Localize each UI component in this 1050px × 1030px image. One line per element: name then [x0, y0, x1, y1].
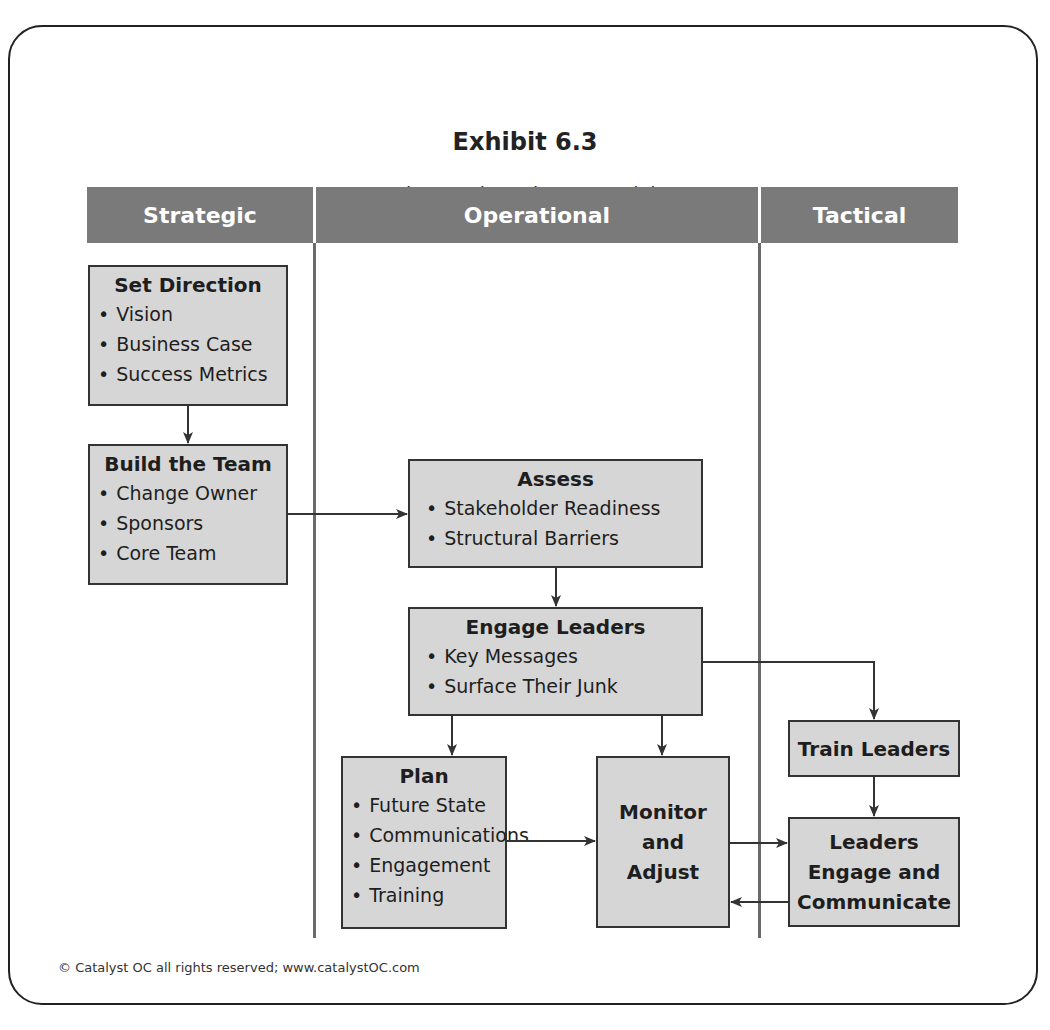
- copyright-footer: © Catalyst OC all rights reserved; www.c…: [58, 960, 420, 975]
- connector-arrows: [0, 0, 1050, 1030]
